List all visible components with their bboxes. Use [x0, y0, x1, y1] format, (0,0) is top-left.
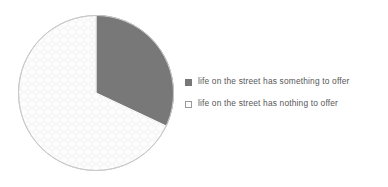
legend-item-something-to-offer[interactable]: life on the street has something to offe… — [185, 76, 385, 98]
hollow-square-icon — [185, 101, 192, 108]
legend-item-nothing-to-offer[interactable]: life on the street has nothing to offer — [185, 98, 385, 120]
legend-item-label: life on the street has something to offe… — [198, 76, 350, 87]
pie-svg — [0, 0, 190, 187]
chart-legend: life on the street has something to offe… — [185, 76, 385, 120]
pie-plot-area — [0, 0, 190, 187]
filled-square-icon — [185, 79, 192, 86]
pie-chart-figure: life on the street has something to offe… — [0, 0, 388, 187]
legend-item-label: life on the street has nothing to offer — [198, 98, 338, 109]
